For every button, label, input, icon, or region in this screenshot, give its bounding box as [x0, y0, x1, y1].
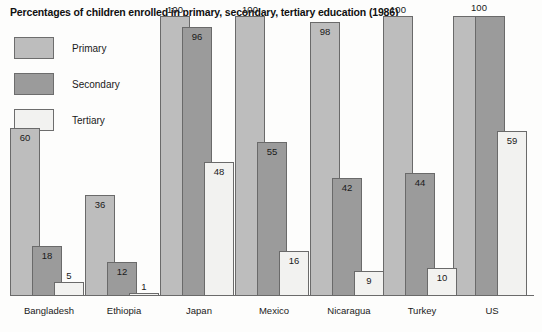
bar-value-label: 48 — [205, 166, 233, 177]
bar-value-label-us-shared: 100 — [453, 2, 505, 13]
bar-value-label: 12 — [108, 266, 136, 277]
x-tick-label-mexico: Mexico — [235, 305, 313, 316]
plot-area: 60185Bangladesh36121Ethiopia1009648Japan… — [0, 0, 542, 332]
bar-chart: Percentages of children enrolled in prim… — [0, 0, 542, 332]
bar-value-label: 60 — [11, 132, 39, 143]
bar-japan-tertiary: 48 — [204, 162, 234, 296]
bar-bangladesh-tertiary: 5 — [54, 282, 84, 296]
bar-us-tertiary: 59 — [497, 131, 527, 296]
bar-value-label: 36 — [86, 199, 114, 210]
bar-group: 1004410 — [383, 16, 461, 296]
bar-value-label: 42 — [333, 182, 361, 193]
bar-value-label: 16 — [280, 255, 308, 266]
bar-nicaragua-tertiary: 9 — [354, 271, 384, 296]
x-tick-label-ethiopia: Ethiopia — [85, 305, 163, 316]
bar-value-label: 100 — [236, 4, 264, 15]
bar-group: 59100 — [453, 16, 531, 296]
bar-group: 98429 — [310, 16, 388, 296]
bar-mexico-tertiary: 16 — [279, 251, 309, 296]
bar-value-label: 9 — [355, 275, 383, 286]
x-tick-label-turkey: Turkey — [383, 305, 461, 316]
bar-ethiopia-tertiary: 1 — [129, 293, 159, 296]
bar-value-label: 44 — [406, 177, 434, 188]
bar-value-label: 96 — [183, 31, 211, 42]
bar-group: 1005516 — [235, 16, 313, 296]
bar-value-label: 10 — [428, 272, 456, 283]
bar-group: 1009648 — [160, 16, 238, 296]
x-tick-label-japan: Japan — [160, 305, 238, 316]
bar-group: 60185 — [10, 16, 88, 296]
bar-value-label: 100 — [161, 4, 189, 15]
x-tick-label-us: US — [453, 305, 531, 316]
bar-value-label: 55 — [258, 146, 286, 157]
bar-turkey-tertiary: 10 — [427, 268, 457, 296]
bar-value-label: 18 — [33, 250, 61, 261]
bar-ethiopia-secondary: 12 — [107, 262, 137, 296]
bar-group: 36121 — [85, 16, 163, 296]
x-tick-label-bangladesh: Bangladesh — [10, 305, 88, 316]
x-tick-label-nicaragua: Nicaragua — [310, 305, 388, 316]
bar-value-label: 59 — [498, 135, 526, 146]
bar-value-label: 98 — [311, 26, 339, 37]
bar-value-label: 100 — [384, 4, 412, 15]
